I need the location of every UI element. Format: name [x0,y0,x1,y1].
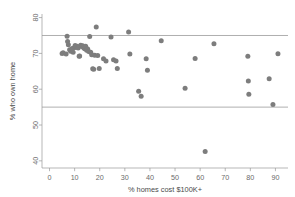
y-tick-label-70: 70 [31,49,40,57]
data-point [95,53,100,58]
data-point [126,29,131,34]
data-point [193,56,198,61]
x-tick-label-60: 60 [196,173,204,182]
x-tick-label-50: 50 [171,173,179,182]
data-point [94,24,99,29]
x-tick-label-40: 40 [146,173,154,182]
data-point [71,50,76,55]
data-point [246,92,251,97]
data-point [275,51,280,56]
data-point [211,41,216,46]
data-point [97,66,102,71]
x-tick-label-70: 70 [221,173,229,182]
data-point [159,38,164,43]
y-tick-label-80: 80 [31,14,40,22]
data-point [104,58,109,63]
x-tick-label-0: 0 [48,173,52,182]
y-tick-label-40: 40 [31,157,40,165]
data-point [65,34,70,39]
data-point [270,102,275,107]
x-tick-label-30: 30 [121,173,129,182]
x-tick-label-90: 90 [271,173,279,182]
data-point [203,149,208,154]
y-tick-label-50: 50 [31,121,40,129]
data-point [109,34,114,39]
data-point [145,68,150,73]
x-tick-label-10: 10 [71,173,79,182]
chart-canvas: 01020304050607080904050607080% homes cos… [0,0,295,197]
x-tick-label-80: 80 [246,173,254,182]
data-point [64,52,69,57]
data-point [115,66,120,71]
data-point [245,54,250,59]
data-point [91,67,96,72]
data-point [87,34,92,39]
data-point [66,42,71,47]
data-point [127,52,132,57]
data-point [139,94,144,99]
x-tick-label-20: 20 [96,173,104,182]
data-point [144,56,149,61]
x-axis-title: % homes cost $100K+ [128,185,202,194]
scatter-chart: 01020304050607080904050607080% homes cos… [0,0,295,197]
data-point [267,76,272,81]
y-axis-title: % who own home [8,62,17,120]
data-point [114,58,119,63]
data-point [136,89,141,94]
data-point [246,78,251,83]
data-point [183,86,188,91]
y-tick-label-60: 60 [31,85,40,93]
data-point [77,53,82,58]
